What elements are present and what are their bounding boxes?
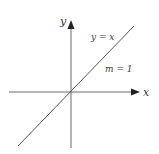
y-axis-label: y: [59, 15, 67, 28]
equation-label: y = x: [90, 32, 114, 42]
y-axis-arrow-icon: [68, 20, 75, 29]
line-y-equals-x: [18, 26, 134, 146]
coordinate-plane: y x y = x m = 1: [0, 0, 159, 154]
x-axis-arrow-icon: [131, 89, 140, 96]
x-axis-label: x: [143, 86, 150, 99]
slope-label: m = 1: [105, 64, 133, 74]
